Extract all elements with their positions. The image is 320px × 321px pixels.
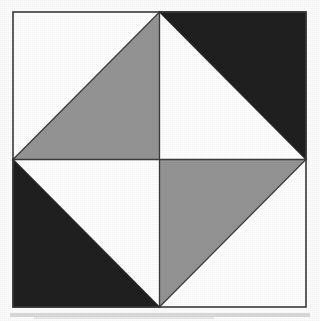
pinwheel-figure: Pinwheel quilt block A bordered square d… <box>0 0 320 321</box>
bottom-scan-smudge <box>10 313 310 317</box>
bottom-scan-smudge-secondary <box>34 317 214 319</box>
figure-root: Pinwheel quilt block A bordered square d… <box>0 0 320 321</box>
